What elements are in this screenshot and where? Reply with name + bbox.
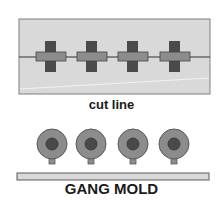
mold-part-4 [159, 129, 189, 164]
base-bar [17, 173, 209, 180]
gang-mold-caption: GANG MOLD [0, 180, 223, 197]
cut-line-panel [19, 19, 210, 94]
cut-line-caption: cut line [0, 97, 223, 112]
gang-mold-panel [17, 129, 209, 180]
mold-part-3 [118, 129, 148, 164]
mold-part-2 [76, 129, 106, 164]
diagram: cut line GANG MOLD [0, 0, 223, 204]
mold-part-1 [37, 129, 67, 164]
